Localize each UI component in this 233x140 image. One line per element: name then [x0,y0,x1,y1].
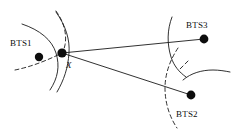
label-bts2: BTS2 [176,110,198,119]
bts-triangulation-figure: BTS1 BTS3 BTS2 X [0,0,233,140]
arc-bts3-solid-right [183,70,230,80]
arc-bts3-solid-left [168,17,186,77]
label-bts3: BTS3 [186,21,208,30]
edge-x-bts3 [62,39,204,53]
arc-bts3-dashed-tick [179,61,188,70]
node-target [57,48,66,57]
label-bts1: BTS1 [10,39,32,48]
node-bts3 [200,35,209,44]
node-bts2 [187,91,196,100]
arc-bts1-dashed-top [56,11,66,53]
edge-group [62,39,204,95]
node-bts1 [35,53,43,61]
label-target-x: X [66,61,72,70]
